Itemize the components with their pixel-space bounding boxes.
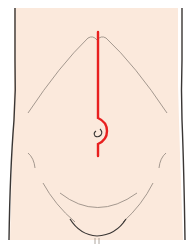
right-body-outline: [182, 8, 186, 240]
abdomen-diagram: [0, 0, 193, 247]
skin-area: [10, 8, 183, 240]
